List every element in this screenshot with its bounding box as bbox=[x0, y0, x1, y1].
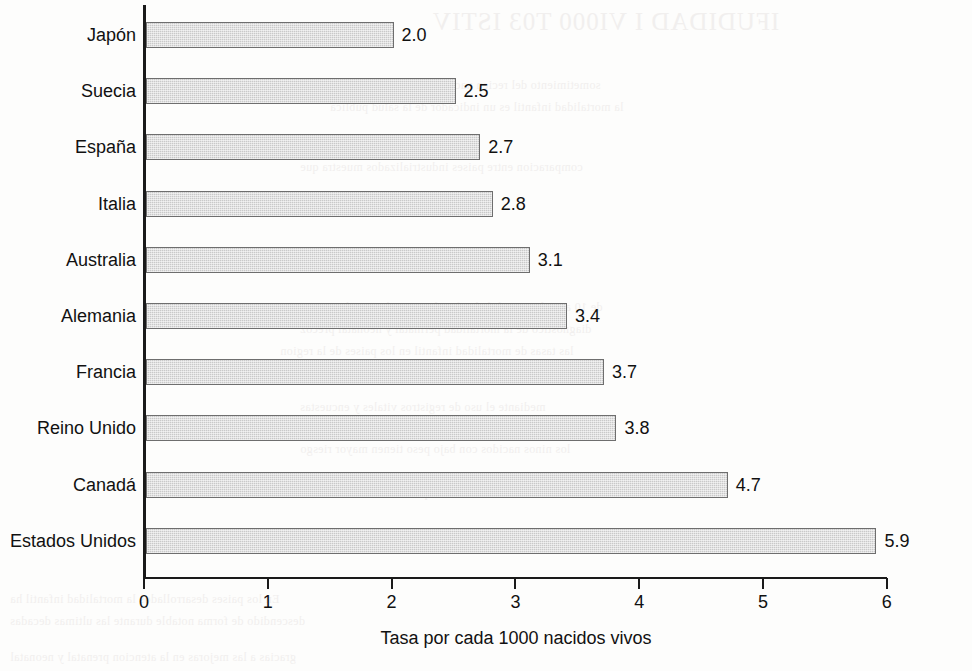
bar-row: Italia2.8 bbox=[0, 191, 972, 217]
x-tick-4 bbox=[638, 578, 640, 589]
bar-row: Francia3.7 bbox=[0, 359, 972, 385]
category-label-0: Japón bbox=[87, 25, 136, 46]
x-tick-3 bbox=[514, 578, 516, 589]
x-tick-label-4: 4 bbox=[634, 592, 644, 613]
category-label-9: Estados Unidos bbox=[10, 530, 136, 551]
category-label-7: Reino Unido bbox=[37, 418, 136, 439]
bar-value-label-1: 2.5 bbox=[464, 81, 489, 102]
x-tick-label-1: 1 bbox=[263, 592, 273, 613]
category-label-8: Canadá bbox=[73, 474, 136, 495]
bar-value-label-3: 2.8 bbox=[501, 193, 526, 214]
category-label-1: Suecia bbox=[81, 81, 136, 102]
bar-row: Japón2.0 bbox=[0, 22, 972, 48]
bar-2 bbox=[146, 134, 480, 160]
x-tick-label-6: 6 bbox=[882, 592, 892, 613]
bar-value-label-4: 3.1 bbox=[538, 249, 563, 270]
category-label-3: Italia bbox=[98, 193, 136, 214]
x-tick-label-2: 2 bbox=[387, 592, 397, 613]
bar-row: Alemania3.4 bbox=[0, 303, 972, 329]
x-tick-0 bbox=[143, 578, 145, 589]
category-label-2: España bbox=[75, 137, 136, 158]
x-tick-6 bbox=[886, 578, 888, 589]
x-tick-label-0: 0 bbox=[139, 592, 149, 613]
bar-row: España2.7 bbox=[0, 134, 972, 160]
bar-chart: 0123456 Japón2.0Suecia2.5España2.7Italia… bbox=[0, 0, 972, 671]
bar-row: Suecia2.5 bbox=[0, 78, 972, 104]
category-label-5: Alemania bbox=[61, 306, 136, 327]
bar-4 bbox=[146, 247, 530, 273]
category-label-6: Francia bbox=[76, 362, 136, 383]
category-label-4: Australia bbox=[66, 249, 136, 270]
bar-3 bbox=[146, 191, 493, 217]
bar-row: Reino Unido3.8 bbox=[0, 415, 972, 441]
bar-6 bbox=[146, 359, 604, 385]
bar-8 bbox=[146, 472, 728, 498]
bar-row: Canadá4.7 bbox=[0, 472, 972, 498]
bar-1 bbox=[146, 78, 456, 104]
bar-value-label-5: 3.4 bbox=[575, 306, 600, 327]
x-tick-label-3: 3 bbox=[510, 592, 520, 613]
bar-5 bbox=[146, 303, 567, 329]
x-tick-5 bbox=[762, 578, 764, 589]
bar-value-label-6: 3.7 bbox=[612, 362, 637, 383]
x-tick-1 bbox=[267, 578, 269, 589]
chart-page: IFUDIDAD I VI000 T03 ISTIV sometimiento … bbox=[0, 0, 972, 671]
bar-row: Estados Unidos5.9 bbox=[0, 528, 972, 554]
x-tick-label-5: 5 bbox=[758, 592, 768, 613]
x-tick-2 bbox=[391, 578, 393, 589]
bar-0 bbox=[146, 22, 394, 48]
bar-value-label-7: 3.8 bbox=[624, 418, 649, 439]
bar-9 bbox=[146, 528, 876, 554]
bar-7 bbox=[146, 415, 616, 441]
bar-value-label-0: 2.0 bbox=[402, 25, 427, 46]
bar-value-label-2: 2.7 bbox=[488, 137, 513, 158]
bar-row: Australia3.1 bbox=[0, 247, 972, 273]
bar-value-label-8: 4.7 bbox=[736, 474, 761, 495]
x-axis-title: Tasa por cada 1000 nacidos vivos bbox=[380, 628, 651, 649]
bar-value-label-9: 5.9 bbox=[884, 530, 909, 551]
